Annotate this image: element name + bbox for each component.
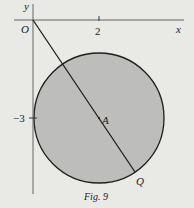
x-axis-label: x	[175, 23, 181, 35]
figure-9: y O 2 x −3 A Q Fig. 9	[0, 0, 194, 208]
figure-caption: Fig. 9	[83, 191, 108, 202]
center-point-A	[98, 117, 100, 119]
y-axis-label: y	[23, 0, 29, 12]
y-tick-label: −3	[13, 112, 25, 124]
x-tick-label: 2	[95, 25, 101, 37]
origin-label: O	[21, 23, 29, 35]
endpoint-label: Q	[136, 175, 144, 187]
center-label: A	[101, 114, 109, 126]
